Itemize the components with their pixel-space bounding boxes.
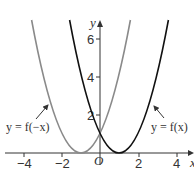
y-tick-label: 4 <box>87 70 94 85</box>
x-tick-label: 2 <box>135 156 142 170</box>
origin-label: O <box>94 153 104 168</box>
y-tick-label: 6 <box>87 32 94 47</box>
x-axis-label: x <box>189 155 194 170</box>
x-tick-label: −2 <box>55 156 70 170</box>
label-f-x: y = f(x) <box>151 120 188 134</box>
y-axis-arrow-icon <box>97 20 103 27</box>
annotation-arrow-left <box>36 105 48 119</box>
label-f-neg-x: y = f(−x) <box>6 120 50 134</box>
graph: −4 −2 2 4 6 4 2 O y x y = f(−x) y = f(x) <box>0 0 194 170</box>
x-tick-label: −4 <box>17 156 32 170</box>
x-tick-label: 4 <box>173 156 180 170</box>
y-axis-label: y <box>88 15 96 30</box>
annotation-arrow-right <box>154 106 164 118</box>
